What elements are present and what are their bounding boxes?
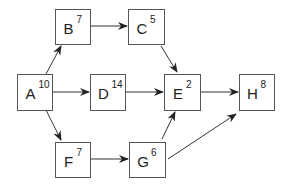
node-label: A bbox=[25, 85, 35, 102]
node-duration: 7 bbox=[77, 147, 83, 158]
node-f: F7 bbox=[56, 143, 91, 178]
node-d: D14 bbox=[91, 75, 126, 111]
node-duration: 2 bbox=[186, 79, 192, 90]
node-label: F bbox=[64, 153, 73, 170]
node-g: G6 bbox=[130, 143, 166, 178]
arrow-c-to-e bbox=[161, 46, 177, 72]
arrow-a-to-f bbox=[46, 110, 61, 140]
node-duration: 10 bbox=[39, 79, 51, 90]
node-c: C5 bbox=[129, 10, 165, 45]
edges-group bbox=[46, 26, 238, 159]
node-label: H bbox=[247, 85, 258, 102]
node-label: G bbox=[137, 153, 149, 170]
arrow-g-to-h bbox=[168, 114, 236, 159]
node-a: A10 bbox=[18, 75, 53, 111]
arrow-a-to-b bbox=[46, 46, 61, 74]
node-duration: 14 bbox=[112, 79, 124, 90]
node-duration: 6 bbox=[151, 147, 157, 158]
node-duration: 8 bbox=[261, 79, 267, 90]
node-e: E2 bbox=[165, 75, 201, 111]
node-h: H8 bbox=[240, 75, 275, 111]
node-label: E bbox=[173, 85, 183, 102]
nodes-group: A10B7C5D14E2F7G6H8 bbox=[18, 10, 275, 178]
node-duration: 5 bbox=[150, 14, 156, 25]
network-diagram: A10B7C5D14E2F7G6H8 bbox=[0, 0, 286, 191]
node-label: C bbox=[137, 20, 148, 37]
node-duration: 7 bbox=[77, 14, 83, 25]
arrow-g-to-e bbox=[162, 112, 175, 139]
node-label: B bbox=[63, 20, 73, 37]
node-label: D bbox=[98, 85, 109, 102]
node-b: B7 bbox=[56, 10, 91, 45]
